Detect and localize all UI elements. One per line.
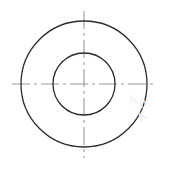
technical-drawing-canvas: A0K [0, 0, 169, 174]
drawing-svg [0, 0, 169, 174]
